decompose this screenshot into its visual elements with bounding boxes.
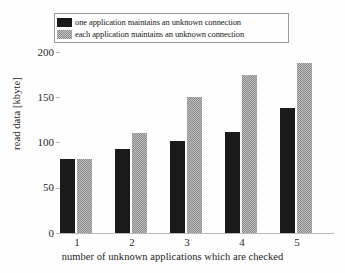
x-tick-label-2: 2 — [115, 236, 149, 248]
y-axis-title: read data [kbyte] — [11, 54, 22, 174]
bar-series-each-cat-1 — [77, 159, 92, 234]
bar-series-one-cat-2 — [115, 149, 130, 234]
y-tick-label-150: 150 — [20, 92, 54, 103]
legend-swatch-gray-icon — [57, 30, 72, 39]
bar-series-each-cat-2 — [132, 133, 147, 234]
plot-area — [56, 52, 332, 234]
legend-label-each-application: each application maintains an unknown co… — [75, 29, 244, 39]
bar-series-each-cat-5 — [297, 63, 312, 234]
legend-entry-each-application: each application maintains an unknown co… — [57, 28, 285, 40]
bar-series-one-cat-5 — [280, 108, 295, 234]
bar-series-each-cat-4 — [242, 75, 257, 234]
bar-group-2 — [115, 52, 149, 234]
x-axis-line — [56, 233, 334, 234]
bar-group-1 — [60, 52, 94, 234]
y-tick-label-200: 200 — [20, 47, 54, 58]
y-tick-label-0: 0 — [20, 228, 54, 239]
chart-legend: one application maintains an unknown con… — [54, 13, 289, 43]
y-tick-label-50: 50 — [20, 182, 54, 193]
bar-group-3 — [170, 52, 204, 234]
x-tick-label-5: 5 — [280, 236, 314, 248]
bar-series-each-cat-3 — [187, 97, 202, 234]
bar-series-one-cat-3 — [170, 141, 185, 234]
bar-group-4 — [225, 52, 259, 234]
bar-series-one-cat-4 — [225, 132, 240, 234]
legend-swatch-dark-icon — [57, 18, 72, 27]
bar-group-5 — [280, 52, 314, 234]
bar-series-one-cat-1 — [60, 159, 75, 234]
x-tick-label-4: 4 — [225, 236, 259, 248]
legend-label-one-application: one application maintains an unknown con… — [75, 17, 241, 27]
legend-entry-one-application: one application maintains an unknown con… — [57, 16, 285, 28]
y-tick-label-100: 100 — [20, 137, 54, 148]
x-tick-label-1: 1 — [60, 236, 94, 248]
x-tick-label-3: 3 — [170, 236, 204, 248]
bar-chart-figure: one application maintains an unknown con… — [0, 0, 345, 273]
x-axis-title: number of unknown applications which are… — [0, 251, 345, 262]
